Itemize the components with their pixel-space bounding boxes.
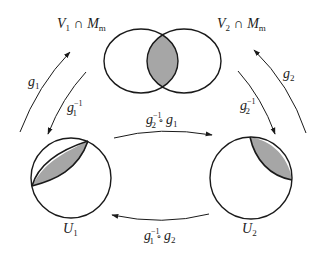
label-top-composite: g−12 ∘ g1 — [146, 111, 177, 130]
label-g2: g2 — [283, 66, 295, 83]
label-g2-inverse: g−12 — [240, 97, 256, 116]
transition-map-diagram: V1 ∩ Mm V2 ∩ Mm g1 g−11 g2 g−12 g−12 ∘ g… — [0, 0, 320, 263]
u2-circle — [210, 137, 292, 219]
label-g1: g1 — [28, 74, 40, 91]
arrow-g2 — [254, 50, 306, 133]
arrow-bottom-composite — [112, 214, 209, 220]
u2-shaded-region — [250, 137, 292, 180]
venn-diagram — [104, 29, 221, 93]
arrow-top-composite — [114, 131, 212, 138]
label-bottom-composite: g−11 ∘ g2 — [144, 227, 175, 246]
set-u1 — [31, 138, 111, 218]
u1-shaded-region — [32, 141, 88, 186]
arrow-g1 — [20, 52, 70, 132]
set-u2 — [210, 137, 292, 219]
label-v1-cap-mm: V1 ∩ Mm — [57, 16, 106, 33]
label-u1: U1 — [63, 221, 78, 238]
label-v2-cap-mm: V2 ∩ Mm — [217, 16, 266, 33]
label-g1-inverse: g−11 — [67, 99, 83, 118]
label-u2: U2 — [242, 221, 257, 238]
